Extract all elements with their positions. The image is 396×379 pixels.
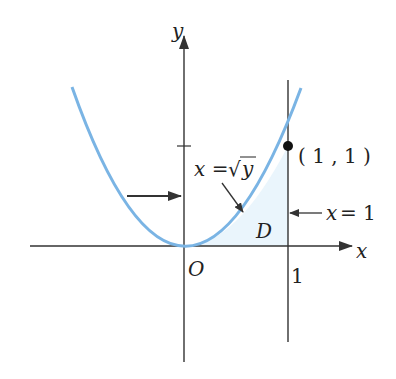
origin-label: O bbox=[188, 257, 204, 281]
y-axis-label: y bbox=[171, 19, 184, 43]
graph-figure: y x O 1 x = √ y ( 1 , 1 ) x = 1 D bbox=[0, 0, 396, 379]
curve-equation-sqrt: √ bbox=[228, 157, 241, 181]
region-label: D bbox=[255, 219, 272, 243]
point-1-1 bbox=[283, 141, 293, 151]
curve-equation-lhs: x = bbox=[194, 157, 228, 181]
line-label-eq: = 1 bbox=[340, 201, 376, 225]
x-tick-label: 1 bbox=[291, 264, 304, 288]
curve-pointer-arrow-icon bbox=[222, 183, 243, 212]
curve-equation-radicand: y bbox=[241, 157, 254, 181]
x-axis-label: x bbox=[356, 239, 367, 263]
line-label-var: x bbox=[326, 201, 337, 225]
point-label: ( 1 , 1 ) bbox=[298, 144, 371, 168]
